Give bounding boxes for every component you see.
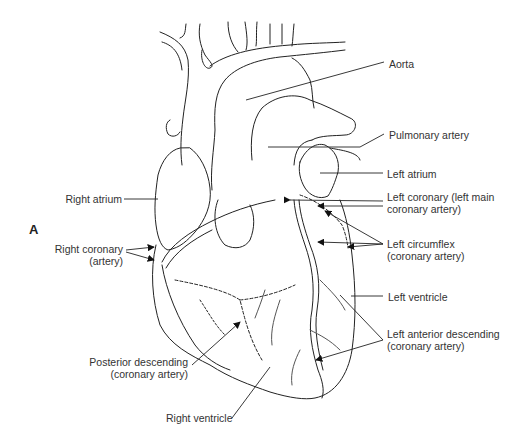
label-left-coronary-line2: coronary artery): [387, 203, 461, 215]
label-aorta: Aorta: [389, 58, 414, 70]
aortic-arch: [210, 42, 345, 66]
label-lad-line2: (coronary artery): [387, 340, 465, 352]
label-left-coronary-line1: Left coronary (left main: [387, 191, 494, 203]
left-atrium-outline: [299, 144, 338, 197]
label-right-coronary-line1: Right coronary: [55, 243, 123, 255]
label-left-circumflex-line2: (coronary artery): [387, 250, 465, 262]
posterior-descending: [175, 280, 262, 360]
right-coronary-artery: [162, 200, 275, 262]
label-right-coronary-line2: (artery): [89, 255, 123, 267]
label-right-atrium: Right atrium: [65, 193, 122, 205]
label-left-atrium: Left atrium: [387, 168, 437, 180]
right-atrium-outline: [155, 148, 210, 250]
label-right-ventricle: Right ventricle: [166, 412, 233, 424]
panel-label: A: [29, 222, 38, 237]
svc-outline: [160, 32, 188, 165]
label-pulmonary-artery: Pulmonary artery: [389, 129, 469, 141]
label-left-ventricle: Left ventricle: [388, 291, 448, 303]
label-posterior-descending-line2: (coronary artery): [110, 368, 188, 380]
lad-artery: [294, 200, 323, 398]
label-left-circumflex-line1: Left circumflex: [387, 238, 455, 250]
label-posterior-descending-line1: Posterior descending: [89, 356, 188, 368]
pulmonary-trunk: [251, 96, 355, 160]
heart-illustration: [0, 0, 524, 447]
label-lad-line1: Left anterior descending: [387, 328, 500, 340]
